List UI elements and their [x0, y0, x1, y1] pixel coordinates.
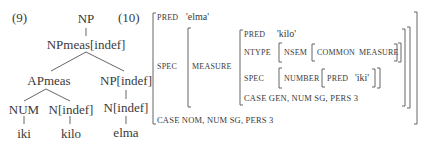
- inner-spec-bracket-left: [279, 68, 282, 88]
- branch-apmeas-num: [24, 89, 46, 101]
- tree-node-apmeas: APmeas: [27, 74, 70, 87]
- tree-leaf-iki: iki: [17, 127, 31, 140]
- tree-node-npmeas: NPmeas[indef]: [47, 38, 126, 51]
- measure-pred-value: 'kilo': [277, 29, 296, 39]
- outer-bracket-left: [153, 13, 156, 124]
- measure-case-line: CASE GEN, NUM SG, PERS 3: [244, 94, 358, 103]
- number-bracket-left: [322, 69, 325, 87]
- nsem-attr: NSEM: [284, 49, 307, 57]
- fs-pred-value: 'elma': [186, 12, 209, 22]
- fs-spec-attr: SPEC: [157, 63, 177, 71]
- ntype-bracket-left: [279, 43, 282, 62]
- branch-npmeas-npindef: [86, 52, 124, 71]
- measure-spec-attr: SPEC: [244, 75, 264, 83]
- number-pred-value: 'iki': [355, 73, 369, 83]
- nsem-bracket-left: [312, 44, 315, 61]
- number-attr: NUMBER: [284, 75, 319, 83]
- fs-pred-attr: PRED: [157, 14, 178, 22]
- tree-leaf-kilo: kilo: [61, 127, 81, 140]
- example-number-9: (9): [12, 11, 27, 24]
- spec-bracket-right: [407, 27, 410, 108]
- tree-node-np: NP: [78, 12, 95, 25]
- measure-pred-attr: PRED: [244, 31, 265, 39]
- tree-node-nindef-left: N[indef]: [49, 103, 94, 116]
- branch-apmeas-nindef: [46, 89, 70, 101]
- measure-bracket-left: [240, 30, 243, 105]
- measure-bracket-right: [402, 29, 405, 106]
- branch-npmeas-apmeas: [51, 52, 86, 71]
- spec-bracket-left: [188, 28, 191, 107]
- tree-node-num: NUM: [9, 103, 39, 116]
- example-number-10: (10): [118, 11, 140, 24]
- inner-spec-bracket-right: [377, 68, 380, 88]
- fs-measure-attr: MEASURE: [192, 63, 232, 71]
- tree-node-npindef: NP[indef]: [100, 74, 152, 87]
- number-pred-attr: PRED: [327, 75, 348, 83]
- outer-bracket-right: [414, 12, 417, 124]
- tree-leaf-elma: elma: [113, 126, 138, 139]
- measure-ntype-attr: NTYPE: [244, 49, 271, 57]
- common-value: MEASURE: [359, 49, 399, 57]
- fs-case-line: CASE NOM, NUM SG, PERS 3: [157, 116, 274, 125]
- common-attr: COMMON: [317, 49, 355, 57]
- tree-node-nindef-right: N[indef]: [104, 101, 149, 114]
- number-bracket-right: [372, 69, 375, 87]
